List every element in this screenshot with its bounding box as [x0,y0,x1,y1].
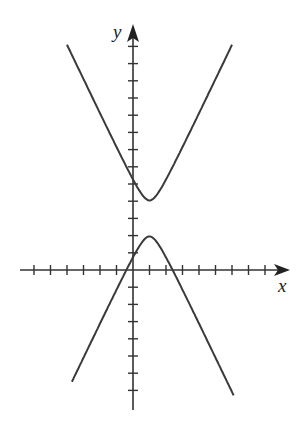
hyperbola-curves [67,45,234,396]
upper-branch [67,45,232,201]
y-axis-ticks [128,46,138,390]
x-axis [20,264,290,276]
y-axis-label: y [111,21,122,42]
hyperbola-graph: y x [0,0,308,441]
lower-branch [72,236,234,395]
x-axis-label: x [277,275,287,296]
y-axis [127,24,139,410]
